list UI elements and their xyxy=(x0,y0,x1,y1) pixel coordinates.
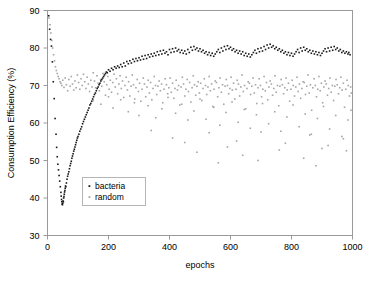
data-point xyxy=(136,79,138,81)
data-point xyxy=(286,116,288,118)
data-point xyxy=(85,114,87,116)
data-point xyxy=(312,50,314,52)
data-point xyxy=(72,83,74,85)
data-point xyxy=(216,51,218,53)
data-point xyxy=(201,51,203,53)
data-point xyxy=(269,43,271,45)
data-point xyxy=(295,86,297,88)
data-point xyxy=(61,199,63,201)
data-point xyxy=(256,52,258,54)
data-point xyxy=(56,73,58,75)
data-point xyxy=(236,49,238,51)
data-point xyxy=(175,79,177,81)
data-point xyxy=(99,90,101,92)
data-point xyxy=(344,106,346,108)
data-point xyxy=(125,76,127,78)
data-point xyxy=(70,76,72,78)
data-point xyxy=(93,96,95,98)
data-point xyxy=(141,55,143,57)
data-point xyxy=(321,148,323,150)
data-point xyxy=(145,96,147,98)
data-point xyxy=(157,85,159,87)
data-point xyxy=(109,70,111,72)
data-point xyxy=(273,88,275,90)
data-point xyxy=(127,89,129,91)
data-point xyxy=(204,52,206,54)
data-point xyxy=(279,48,281,50)
data-point xyxy=(175,47,177,49)
data-point xyxy=(250,56,252,58)
data-point xyxy=(228,93,230,95)
data-point xyxy=(68,171,70,173)
data-point xyxy=(69,168,71,170)
data-point xyxy=(318,52,320,54)
data-point xyxy=(81,126,83,128)
data-point xyxy=(103,81,105,83)
data-point xyxy=(57,76,59,78)
data-point xyxy=(246,55,248,57)
data-point xyxy=(144,83,146,85)
data-point xyxy=(321,52,323,54)
data-point xyxy=(300,97,302,99)
data-point xyxy=(301,88,303,90)
data-point xyxy=(149,92,151,94)
data-point xyxy=(288,52,290,54)
data-point xyxy=(48,15,50,17)
data-point xyxy=(193,110,195,112)
data-point xyxy=(187,119,189,121)
data-point xyxy=(63,197,65,199)
data-point xyxy=(134,102,136,104)
data-point xyxy=(103,76,105,78)
data-point xyxy=(335,115,337,117)
data-point xyxy=(272,45,274,47)
data-point xyxy=(178,85,180,87)
data-point xyxy=(253,92,255,94)
data-point xyxy=(236,79,238,81)
data-point xyxy=(59,180,61,182)
data-point xyxy=(117,65,119,67)
data-point xyxy=(105,73,107,75)
data-point xyxy=(314,53,316,55)
data-point xyxy=(56,147,58,149)
data-point xyxy=(218,162,220,164)
data-point xyxy=(88,107,90,109)
data-point xyxy=(285,77,287,79)
data-point xyxy=(174,88,176,90)
data-point xyxy=(147,54,149,56)
data-point xyxy=(179,104,181,106)
data-point xyxy=(290,88,292,90)
data-point xyxy=(67,175,69,177)
data-point xyxy=(336,47,338,49)
data-point xyxy=(89,91,91,93)
data-point xyxy=(298,52,300,54)
data-point xyxy=(323,50,325,52)
data-point xyxy=(205,85,207,87)
data-point xyxy=(91,86,93,88)
data-point xyxy=(74,146,76,148)
data-point xyxy=(257,160,259,162)
data-point xyxy=(111,91,113,93)
data-point xyxy=(233,82,235,84)
data-point xyxy=(325,83,327,85)
x-tick-label: 0 xyxy=(45,242,50,252)
data-point xyxy=(176,50,178,52)
data-point xyxy=(118,83,120,85)
data-point xyxy=(81,85,83,87)
data-point xyxy=(112,82,114,84)
data-point xyxy=(320,55,322,57)
data-point xyxy=(214,53,216,55)
data-point xyxy=(100,80,102,82)
data-point xyxy=(124,65,126,67)
data-point xyxy=(98,84,100,86)
data-point xyxy=(307,74,309,76)
data-point xyxy=(79,130,81,132)
data-point xyxy=(224,46,226,48)
data-point xyxy=(350,86,352,88)
data-point xyxy=(280,51,282,53)
data-point xyxy=(94,80,96,82)
data-point xyxy=(182,52,184,54)
data-point xyxy=(195,94,197,96)
data-point xyxy=(115,67,117,69)
data-point xyxy=(54,118,56,120)
data-point xyxy=(63,201,65,203)
